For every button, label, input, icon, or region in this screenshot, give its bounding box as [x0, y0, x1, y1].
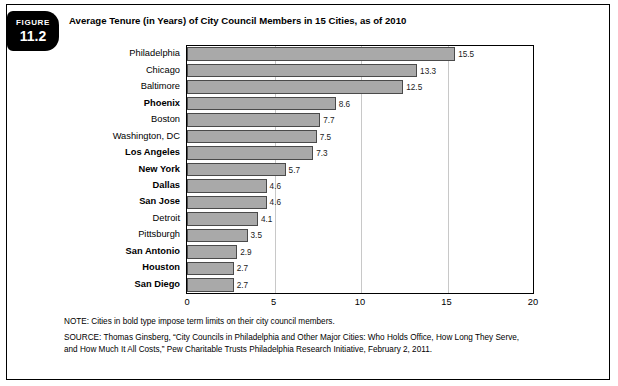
bar: [187, 47, 455, 61]
bar: [187, 245, 237, 259]
bar: [187, 179, 267, 193]
bar-value-label: 8.6: [336, 99, 350, 108]
bar: [187, 130, 317, 144]
bar: [187, 262, 234, 276]
bar: [187, 97, 336, 111]
category-label: San Jose: [62, 196, 180, 206]
bar: [187, 163, 286, 177]
bar-row: 2.7: [187, 278, 533, 292]
x-axis-tick-label: 0: [175, 297, 199, 307]
chart-area: 15.5Philadelphia13.3Chicago12.5Baltimore…: [64, 41, 596, 311]
category-label: Detroit: [62, 213, 180, 223]
bar-value-label: 3.5: [248, 231, 262, 240]
category-label: San Diego: [62, 279, 180, 289]
bar-row: 5.7: [187, 163, 533, 177]
bar-value-label: 12.5: [403, 83, 422, 92]
bar-row: 7.7: [187, 113, 533, 127]
bar-row: 2.9: [187, 245, 533, 259]
category-label: Chicago: [62, 65, 180, 75]
bar-value-label: 7.5: [317, 132, 331, 141]
category-label: Boston: [62, 114, 180, 124]
category-label: Dallas: [62, 180, 180, 190]
bar-row: 4.6: [187, 196, 533, 210]
bar-row: 12.5: [187, 80, 533, 94]
source-text-line2: and How Much It All Costs,” Pew Charitab…: [64, 344, 595, 357]
x-axis-tick-label: 15: [435, 297, 459, 307]
figure-badge-word: FIGURE: [7, 18, 59, 27]
bar: [187, 229, 248, 243]
bar: [187, 146, 313, 160]
bar: [187, 212, 258, 226]
bar-row: 15.5: [187, 47, 533, 61]
bar-value-label: 2.9: [237, 247, 251, 256]
figure-title: Average Tenure (in Years) of City Counci…: [69, 15, 599, 27]
category-label: Phoenix: [62, 98, 180, 108]
note-text: NOTE: Cities in bold type impose term li…: [64, 316, 595, 329]
x-axis-tick-label: 20: [521, 297, 545, 307]
x-axis-tick-label: 10: [348, 297, 372, 307]
bar-row: 4.1: [187, 212, 533, 226]
figure-badge: FIGURE 11.2: [7, 11, 59, 51]
category-label: Los Angeles: [62, 147, 180, 157]
source-text-line1: SOURCE: Thomas Ginsberg, “City Councils …: [64, 332, 595, 345]
category-label: Philadelphia: [62, 48, 180, 58]
bar-row: 4.6: [187, 179, 533, 193]
bar: [187, 64, 417, 78]
bar-row: 7.3: [187, 146, 533, 160]
category-label: Baltimore: [62, 81, 180, 91]
bar-row: 13.3: [187, 64, 533, 78]
figure-notes: NOTE: Cities in bold type impose term li…: [64, 316, 595, 357]
bar-row: 7.5: [187, 130, 533, 144]
bar-value-label: 7.3: [313, 149, 327, 158]
bar: [187, 113, 320, 127]
bar-row: 8.6: [187, 97, 533, 111]
bar-row: 2.7: [187, 262, 533, 276]
figure-container: FIGURE 11.2 Average Tenure (in Years) of…: [6, 4, 610, 380]
category-label: Houston: [62, 262, 180, 272]
bar-value-label: 5.7: [286, 165, 300, 174]
bar: [187, 196, 267, 210]
bar: [187, 278, 234, 292]
bar-value-label: 4.6: [267, 181, 281, 190]
bar-value-label: 4.1: [258, 214, 272, 223]
category-label: New York: [62, 164, 180, 174]
bar-row: 3.5: [187, 229, 533, 243]
x-axis-tick-label: 5: [262, 297, 286, 307]
bar-value-label: 4.6: [267, 198, 281, 207]
figure-badge-number: 11.2: [7, 28, 59, 44]
category-label: Washington, DC: [62, 131, 180, 141]
bar-value-label: 2.7: [234, 264, 248, 273]
category-label: San Antonio: [62, 246, 180, 256]
category-label: Pittsburgh: [62, 229, 180, 239]
bar-value-label: 15.5: [455, 50, 474, 59]
bar: [187, 80, 403, 94]
bar-value-label: 7.7: [320, 116, 334, 125]
bar-value-label: 2.7: [234, 280, 248, 289]
bar-value-label: 13.3: [417, 66, 436, 75]
